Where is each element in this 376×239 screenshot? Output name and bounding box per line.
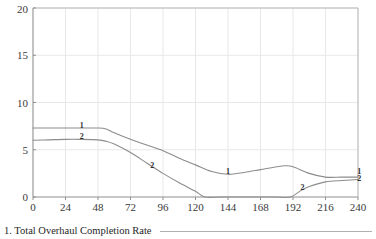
figure-caption: 1. Total Overhaul Completion Rate xyxy=(0,225,376,236)
x-tick-label-192: 192 xyxy=(285,201,302,212)
caption-label: 1. Total Overhaul Completion Rate xyxy=(4,225,152,236)
curve-label-2-2: 2 xyxy=(150,161,154,170)
x-tick-label-72: 72 xyxy=(125,201,136,212)
curve-label-1-3: 1 xyxy=(226,167,230,176)
y-tick-label-5: 5 xyxy=(23,144,29,156)
x-tick-label-168: 168 xyxy=(252,201,269,212)
curve-label-2-4: 2 xyxy=(300,183,304,192)
x-tick-label-144: 144 xyxy=(220,201,237,212)
line-chart: 0 5 10 15 20 0 24 48 72 96 120 144 168 1… xyxy=(0,0,376,212)
curve-label-2-1: 2 xyxy=(80,132,84,141)
x-tick-label-240: 240 xyxy=(350,201,367,212)
x-tick-label-120: 120 xyxy=(187,201,204,212)
x-tick-label-0: 0 xyxy=(30,201,36,212)
curve-label-1-0: 1 xyxy=(80,121,84,130)
grid-lines xyxy=(33,8,358,197)
x-axis-tick-labels: 0 24 48 72 96 120 144 168 192 216 240 xyxy=(30,201,367,212)
y-tick-label-20: 20 xyxy=(17,3,29,15)
curve-inline-annotations: 1221212 xyxy=(80,121,362,192)
y-tick-label-0: 0 xyxy=(23,191,29,203)
y-tick-label-15: 15 xyxy=(17,49,29,61)
y-tick-label-10: 10 xyxy=(17,97,29,109)
x-tick-label-24: 24 xyxy=(60,201,72,212)
caption-rule xyxy=(160,231,372,232)
x-tick-label-96: 96 xyxy=(158,201,170,212)
x-tick-label-48: 48 xyxy=(93,201,105,212)
curve-label-2-6: 2 xyxy=(357,174,361,183)
figure-total-overhaul-completion-rate: 0 5 10 15 20 0 24 48 72 96 120 144 168 1… xyxy=(0,0,376,239)
x-tick-label-216: 216 xyxy=(317,201,334,212)
y-axis-tick-labels: 0 5 10 15 20 xyxy=(17,3,29,203)
